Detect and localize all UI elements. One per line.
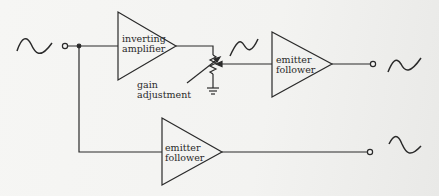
emitter-follower-bottom-label: emitter follower [165, 143, 204, 163]
label-line: follower [165, 153, 204, 163]
output-sine-top-icon [388, 58, 421, 72]
output-sine-bottom-icon [389, 137, 421, 154]
label-line: follower [276, 65, 315, 75]
output-terminal-bottom [367, 149, 372, 154]
input-terminal [62, 43, 67, 48]
emitter-follower-top-label: emitter follower [276, 55, 315, 75]
circuit-svg [0, 0, 439, 196]
label-line: adjustment [137, 90, 191, 100]
input-sine-icon [17, 39, 52, 54]
attenuated-sine-icon [230, 39, 258, 56]
output-terminal-top [370, 61, 375, 66]
ground-icon [207, 88, 219, 94]
diagram-canvas: inverting amplifier emitter follower emi… [0, 0, 439, 196]
inverting-amplifier-label: inverting amplifier [122, 34, 166, 54]
gain-adjustment-label: gain adjustment [137, 80, 191, 100]
label-line: amplifier [122, 44, 166, 54]
